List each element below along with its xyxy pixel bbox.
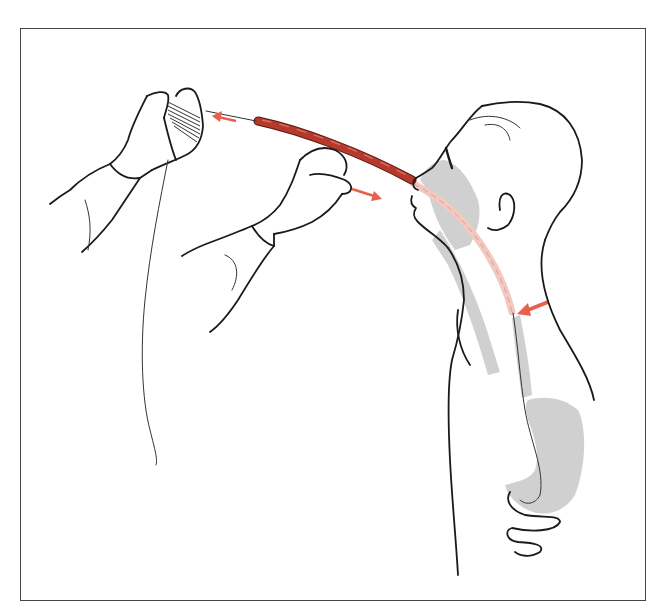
tube-coil [168, 102, 200, 142]
advance-arrow [352, 189, 382, 201]
tube-tip-arrow [517, 302, 548, 316]
left-hand [50, 89, 203, 252]
hanging-tube [142, 160, 168, 465]
right-hand [182, 148, 351, 332]
medical-illustration [0, 0, 670, 615]
